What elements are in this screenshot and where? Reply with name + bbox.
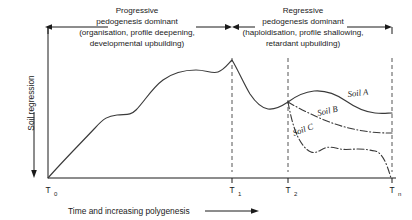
x-axis-label: Time and increasing polygenesis (68, 206, 190, 216)
x-tick-t2-base: T (285, 185, 290, 195)
y-axis-label-group: Soil regression (26, 75, 37, 178)
span-junction-marker (225, 24, 239, 30)
x-tick-label-t2: T 2 (285, 185, 298, 197)
main-development-curve (48, 60, 288, 178)
progressive-header-line4: developmental upbuilding) (90, 39, 185, 48)
x-tick-tn-base: T (389, 185, 394, 195)
progressive-header-line2: pedogenesis dominant (96, 17, 178, 26)
x-tick-t0-sub: 0 (54, 191, 58, 197)
figure-svg: Progressive pedogenesis dominant (organi… (0, 0, 412, 220)
progressive-header-line1: Progressive (116, 6, 159, 15)
x-tick-t1-base: T (229, 185, 234, 195)
regressive-header-line3: (haploidisation, profile shallowing, (242, 28, 363, 37)
soil-polygenesis-figure: Progressive pedogenesis dominant (organi… (0, 0, 412, 220)
regressive-header-line1: Regressive (283, 6, 324, 15)
progressive-header-line3: (organisation, profile deepening, (79, 28, 195, 37)
regressive-header: Regressive pedogenesis dominant (haploid… (242, 6, 363, 48)
x-tick-tn-sub: n (398, 191, 401, 197)
regressive-header-line2: pedogenesis dominant (262, 17, 344, 26)
soil-b-label: Soil B (316, 103, 339, 118)
regressive-header-line4: retardant upbuilding) (266, 39, 341, 48)
x-axis-label-group: Time and increasing polygenesis (68, 206, 259, 216)
x-tick-t1-sub: 1 (238, 191, 242, 197)
x-tick-t2-sub: 2 (294, 191, 298, 197)
x-tick-label-t0: T 0 (45, 185, 58, 197)
x-tick-t0-base: T (45, 185, 50, 195)
soil-a-label: Soil A (347, 86, 369, 99)
x-tick-label-tn: T n (389, 185, 401, 197)
x-tick-label-t1: T 1 (229, 185, 242, 197)
soil-c-label: Soil C (291, 121, 315, 138)
x-axis-ticks (232, 178, 392, 183)
